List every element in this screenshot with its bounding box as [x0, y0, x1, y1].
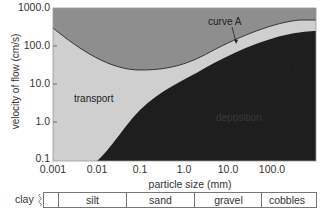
clay-break-icon — [39, 194, 42, 206]
size-class-gravel: gravel — [194, 193, 262, 207]
transport-label: transport — [74, 93, 113, 104]
x-tick-100: 100.0 — [252, 163, 292, 175]
x-tick-0.001: 0.001 — [33, 163, 73, 175]
x-axis-label: particle size (mm) — [130, 178, 250, 190]
size-class-cobbles: cobbles — [261, 193, 312, 207]
curve-b-label: curve B — [266, 61, 300, 72]
y-tick-100: 100.0 — [0, 39, 50, 51]
x-tick-1: 1.0 — [164, 163, 204, 175]
size-class-silt: silt — [58, 193, 126, 207]
curve-a-label: curve A — [208, 16, 241, 27]
y-tick-10: 10.0 — [0, 77, 50, 89]
particle-size-bar: silt sand gravel cobbles — [43, 192, 317, 208]
size-class-clay: clay — [15, 193, 34, 205]
x-tick-10: 10.0 — [208, 163, 248, 175]
x-tick-0.1: 0.1 — [120, 163, 160, 175]
y-tick-1: 1.0 — [0, 115, 50, 127]
deposition-label: deposition — [216, 112, 262, 123]
y-tick-1000: 1000.0 — [0, 1, 50, 13]
size-class-sand: sand — [126, 193, 194, 207]
x-tick-0.01: 0.01 — [77, 163, 117, 175]
